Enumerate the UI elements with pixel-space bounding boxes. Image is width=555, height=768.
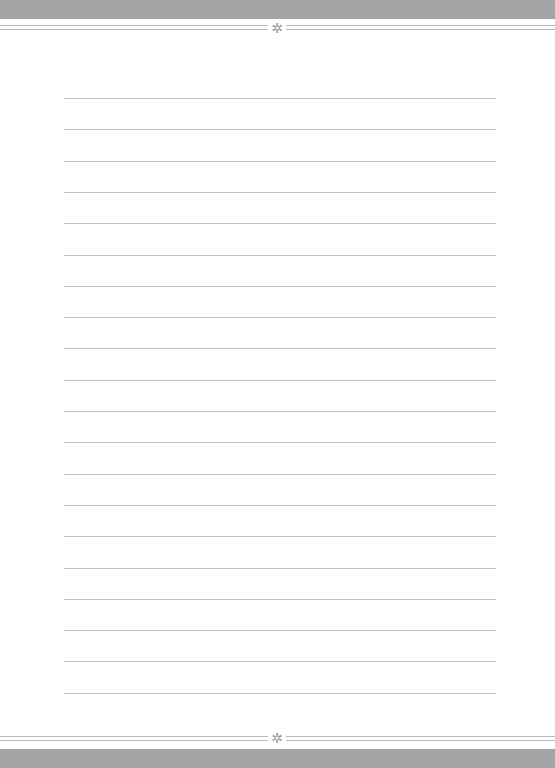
- ruled-line: [64, 286, 496, 287]
- ruled-line: [64, 474, 496, 475]
- ruled-line: [64, 348, 496, 349]
- ruled-line: [64, 98, 496, 99]
- ruled-line: [64, 129, 496, 130]
- ruled-line: [64, 693, 496, 694]
- ruled-line: [64, 317, 496, 318]
- ruled-line: [64, 255, 496, 256]
- header-star-ornament-icon: ✲: [268, 21, 286, 35]
- ruled-line: [64, 630, 496, 631]
- ruled-line: [64, 161, 496, 162]
- ruled-line: [64, 192, 496, 193]
- ruled-line: [64, 661, 496, 662]
- ruled-line: [64, 380, 496, 381]
- footer-band: [0, 749, 555, 768]
- ruled-line: [64, 442, 496, 443]
- ruled-line: [64, 223, 496, 224]
- footer-star-ornament-icon: ✲: [268, 731, 286, 745]
- ruled-line: [64, 568, 496, 569]
- header-band: [0, 0, 555, 19]
- ruled-line: [64, 411, 496, 412]
- ruled-line: [64, 505, 496, 506]
- ruled-line: [64, 536, 496, 537]
- ruled-line: [64, 599, 496, 600]
